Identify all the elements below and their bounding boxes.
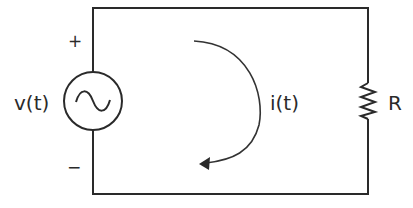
- arrowhead-icon: [199, 157, 210, 170]
- ac-voltage-source: [64, 72, 122, 130]
- circuit-diagram: + − v(t) i(t) R: [0, 0, 413, 208]
- wire-bottom: [93, 119, 368, 194]
- source-label: v(t): [14, 91, 49, 115]
- wire-top-left: [93, 8, 368, 83]
- positive-terminal-label: +: [68, 31, 82, 51]
- resistor-label: R: [388, 91, 402, 115]
- current-label: i(t): [270, 91, 299, 115]
- negative-terminal-label: −: [67, 157, 81, 177]
- current-arc: [194, 41, 260, 163]
- sine-wave-icon: [76, 91, 110, 110]
- resistor-zigzag: [361, 83, 375, 119]
- current-arrow: [194, 41, 260, 170]
